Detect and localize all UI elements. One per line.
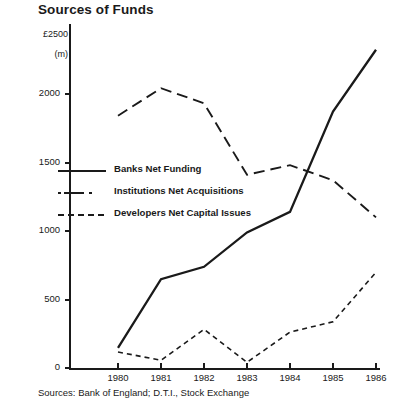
source-note: Sources: Bank of England; D.T.I., Stock … xyxy=(38,387,249,398)
chart-figure: Sources of Funds £2500 (m) 2000 1500 100… xyxy=(0,0,397,403)
series-plot xyxy=(0,0,397,403)
legend-swatch-dotted-icon xyxy=(58,214,106,216)
legend-label-developers-net-capital-issues: Developers Net Capital Issues xyxy=(114,207,251,218)
legend-label-institutions-net-acquisitions: Institutions Net Acquisitions xyxy=(114,185,244,196)
legend-label-banks-net-funding: Banks Net Funding xyxy=(114,163,201,174)
series-line-banks-net-funding xyxy=(118,50,376,348)
legend-swatch-solid-icon xyxy=(58,170,106,172)
legend-swatch-dashdot-icon xyxy=(58,192,106,194)
series-line-institutions-net-acquisitions xyxy=(118,88,376,217)
